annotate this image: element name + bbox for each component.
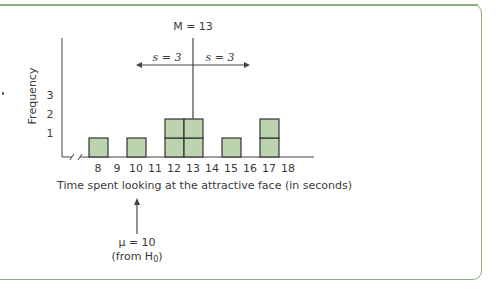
arrow-left-icon: [136, 62, 142, 68]
population-mean-source: (from H0): [111, 250, 162, 264]
bar-8: [89, 138, 108, 157]
x-tick: 11: [148, 162, 162, 175]
x-tick: 13: [186, 162, 200, 175]
bar-17-unit-1: [260, 138, 279, 157]
histogram-bars: [89, 119, 279, 157]
sample-mean-label: M = 13: [173, 20, 213, 33]
x-tick: 10: [129, 162, 143, 175]
x-tick: 14: [205, 162, 219, 175]
x-tick: 17: [262, 162, 276, 175]
x-tick: 12: [167, 162, 181, 175]
arrow-right-icon: [244, 62, 250, 68]
x-tick: 8: [95, 162, 102, 175]
x-tick: 16: [243, 162, 257, 175]
bar-10: [127, 138, 146, 157]
x-tick: 18: [281, 162, 295, 175]
bar-12-unit-2: [165, 119, 184, 138]
x-tick: 15: [224, 162, 238, 175]
sd-right-label: s = 3: [206, 51, 235, 64]
left-edge-mark: [2, 92, 4, 95]
frequency-histogram: Frequency 1 2 3 8 9 10 11 12 13 14 15 16…: [0, 0, 499, 292]
arrow-up-icon: [134, 198, 140, 205]
bar-13-unit-1: [184, 138, 203, 157]
y-tick-3: 3: [47, 89, 54, 102]
y-axis-label: Frequency: [26, 67, 39, 124]
sd-left-label: s = 3: [153, 51, 182, 64]
bar-15: [222, 138, 241, 157]
x-tick-labels: 8 9 10 11 12 13 14 15 16 17 18: [95, 162, 296, 175]
y-tick-2: 2: [47, 108, 54, 121]
bar-13-unit-2: [184, 119, 203, 138]
x-axis-label: Time spent looking at the attractive fac…: [56, 179, 352, 192]
bar-17-unit-2: [260, 119, 279, 138]
x-tick: 9: [114, 162, 121, 175]
y-tick-1: 1: [47, 127, 54, 140]
bar-12-unit-1: [165, 138, 184, 157]
population-mean-label: μ = 10: [118, 236, 155, 249]
